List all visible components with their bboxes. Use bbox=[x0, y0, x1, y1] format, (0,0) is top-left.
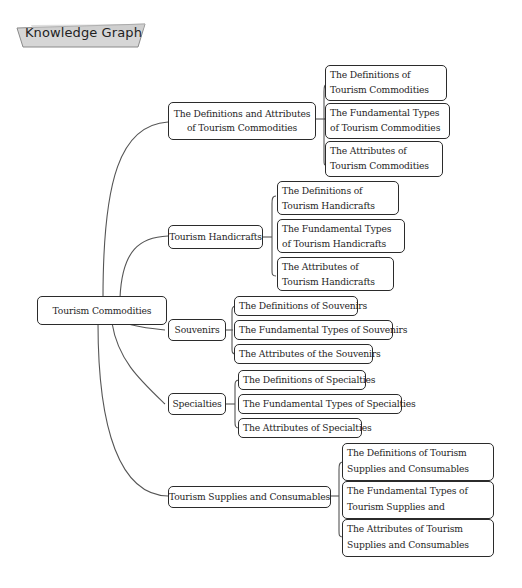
leaf-node[interactable]: The Fundamental Types of Tourism Handicr… bbox=[277, 219, 405, 253]
leaf-label: The Definitions of Souvenirs bbox=[239, 298, 367, 314]
leaf-node[interactable]: The Attributes of Tourism Commodities bbox=[325, 141, 443, 177]
leaf-label: The Fundamental Types of Tourism Commodi… bbox=[330, 105, 445, 135]
leaf-label: The Attributes of Tourism Supplies and C… bbox=[347, 521, 489, 553]
leaf-label: The Definitions of Tourism Handicrafts bbox=[282, 183, 394, 213]
leaf-node[interactable]: The Fundamental Types of Tourism Commodi… bbox=[325, 103, 450, 139]
root-node[interactable]: Tourism Commodities bbox=[37, 296, 167, 325]
leaf-label: The Fundamental Types of Specialties bbox=[243, 396, 416, 412]
leaf-label: The Attributes of Tourism Handicrafts bbox=[282, 259, 389, 289]
leaf-node[interactable]: The Fundamental Types of Tourism Supplie… bbox=[342, 481, 494, 519]
leaf-node[interactable]: The Fundamental Types of Specialties bbox=[238, 394, 402, 414]
branch-label: Tourism Supplies and Consumables bbox=[169, 489, 330, 505]
leaf-label: The Definitions of Tourism Supplies and … bbox=[347, 445, 489, 477]
leaf-node[interactable]: The Attributes of Specialties bbox=[238, 418, 362, 438]
leaf-node[interactable]: The Definitions of Souvenirs bbox=[234, 296, 358, 316]
branch-label: The Definitions and Attributes of Touris… bbox=[173, 107, 311, 135]
leaf-label: The Attributes of Specialties bbox=[243, 420, 372, 436]
leaf-node[interactable]: The Attributes of Tourism Handicrafts bbox=[277, 257, 394, 291]
branch-node-specialties[interactable]: Specialties bbox=[168, 393, 226, 415]
branch-node-definitions-attributes[interactable]: The Definitions and Attributes of Touris… bbox=[168, 102, 316, 140]
leaf-node[interactable]: The Attributes of the Souvenirs bbox=[234, 344, 373, 364]
leaf-label: The Fundamental Types of Souvenirs bbox=[239, 322, 407, 338]
root-label: Tourism Commodities bbox=[53, 303, 152, 319]
branch-label: Tourism Handicrafts bbox=[169, 229, 262, 245]
leaf-node[interactable]: The Fundamental Types of Souvenirs bbox=[234, 320, 393, 340]
branch-node-souvenirs[interactable]: Souvenirs bbox=[168, 319, 226, 341]
branch-node-tourism-handicrafts[interactable]: Tourism Handicrafts bbox=[168, 225, 263, 249]
leaf-node[interactable]: The Definitions of Tourism Handicrafts bbox=[277, 181, 399, 215]
leaf-node[interactable]: The Definitions of Tourism Commodities bbox=[325, 65, 447, 101]
leaf-node[interactable]: The Definitions of Specialties bbox=[238, 370, 366, 390]
leaf-label: The Definitions of Specialties bbox=[243, 372, 375, 388]
branch-label: Specialties bbox=[172, 396, 221, 412]
branch-label: Souvenirs bbox=[175, 322, 220, 338]
branch-node-supplies-consumables[interactable]: Tourism Supplies and Consumables bbox=[168, 486, 331, 508]
leaf-label: The Definitions of Tourism Commodities bbox=[330, 67, 442, 97]
leaf-node[interactable]: The Attributes of Tourism Supplies and C… bbox=[342, 519, 494, 557]
leaf-label: The Attributes of Tourism Commodities bbox=[330, 143, 438, 173]
leaf-label: The Attributes of the Souvenirs bbox=[239, 346, 381, 362]
leaf-node[interactable]: The Definitions of Tourism Supplies and … bbox=[342, 443, 494, 481]
leaf-label: The Fundamental Types of Tourism Handicr… bbox=[282, 221, 400, 251]
